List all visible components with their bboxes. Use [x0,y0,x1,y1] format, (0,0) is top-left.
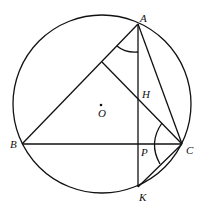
label-O: O [98,107,106,119]
label-A: A [139,12,147,24]
segment-AB [22,24,138,144]
label-K: K [138,191,147,203]
center-dot-O [100,104,103,107]
label-B: B [10,138,17,150]
angle-mark-A [117,46,138,52]
circumcircle [13,15,191,193]
altitude-from-C [102,62,182,144]
label-C: C [186,144,194,156]
geometry-diagram: A B C H P K O [0,0,204,213]
label-P: P [140,146,148,158]
label-H: H [141,88,151,100]
